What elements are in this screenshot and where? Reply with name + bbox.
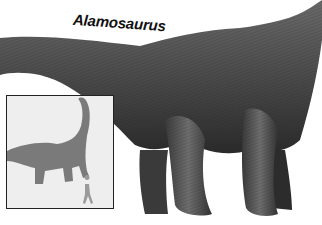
human-silhouette bbox=[83, 175, 93, 204]
size-comparison-inset bbox=[6, 95, 114, 209]
dinosaur-silhouette bbox=[7, 97, 90, 184]
illustration: Alamosaurus bbox=[0, 0, 322, 225]
size-comparison-drawing bbox=[7, 96, 113, 208]
